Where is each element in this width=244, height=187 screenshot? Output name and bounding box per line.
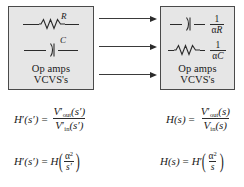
capacitance-symbol: C (217, 51, 223, 61)
left-caption-op-amps: Op amps (9, 63, 93, 75)
rhs-function: H (192, 155, 200, 167)
arrow-head-icon (150, 16, 157, 22)
lhs-argument: (s′) (24, 155, 38, 167)
fraction-denominator: V′in(s′) (53, 118, 85, 132)
arrow-head-icon (150, 72, 157, 78)
lhs-function: H (14, 155, 22, 167)
right-row-resistor: 1 αC (161, 37, 234, 63)
resistance-symbol: R (217, 25, 223, 35)
fraction-denominator: αR (210, 24, 225, 35)
left-row-resistor: R (9, 11, 93, 37)
transform-arrow-3 (99, 70, 157, 79)
rhs-function: H (51, 155, 59, 167)
fraction-numerator: 1 (213, 14, 222, 24)
right-caption-vcvs: VCVS's (161, 74, 234, 86)
fraction-numerator: α2 (206, 150, 218, 161)
fraction-denominator: αC (210, 50, 225, 61)
equation-right-mapping: H(s) = H′ ( α2 s ) (160, 150, 223, 172)
equals-sign: = (41, 113, 47, 125)
fraction-denominator: s (209, 161, 217, 172)
capacitor-icon (182, 17, 194, 31)
transform-arrow-2 (99, 42, 157, 51)
lead-line-right (200, 50, 205, 51)
equals-sign: = (183, 155, 189, 167)
numerator-argument: (s′) (71, 105, 85, 117)
arrow-shaft (99, 74, 151, 75)
arrow-shaft (99, 46, 151, 47)
denominator-argument: (s) (215, 119, 227, 131)
lhs-function: H (166, 113, 174, 125)
equals-sign: = (189, 113, 195, 125)
fraction-numerator: 1 (214, 40, 223, 50)
equation-left-mapping: H′(s′) = H ( α2 s′ ) (14, 150, 79, 172)
lhs-function: H (14, 113, 22, 125)
numerator-function: V (201, 105, 208, 117)
transfer-ratio: V′out(s) Vin(s) (199, 105, 232, 132)
lhs-argument: (s) (174, 113, 186, 125)
fraction-denominator: s′ (64, 161, 74, 172)
fraction-denominator: Vin(s) (202, 118, 229, 132)
lead-line-left (24, 50, 46, 51)
alpha-exponent: 2 (70, 150, 73, 157)
transfer-ratio: V′out(s′) V′in(s′) (52, 105, 87, 132)
denominator-function: V (55, 119, 62, 131)
right-parenthesis: ) (76, 152, 80, 170)
lead-line-right (194, 24, 205, 25)
fraction-numerator: V′out(s) (199, 105, 232, 118)
lead-line-right (65, 24, 79, 25)
impedance-value-1: 1 αR (210, 14, 225, 35)
equation-left-transfer-function: H′(s′) = V′out(s′) V′in(s′) (14, 105, 88, 132)
lead-line-right (58, 50, 78, 51)
denominator-argument: (s′) (69, 119, 83, 131)
equals-sign: = (41, 155, 47, 167)
resistor-symbol-group: R (23, 18, 79, 30)
arrow-head-icon (150, 44, 157, 50)
left-parenthesis: ( (202, 152, 206, 170)
capacitor-label: C (60, 36, 66, 45)
capacitor-icon (46, 43, 58, 57)
transformed-network-box: 1 αR 1 αC Op amps VCVS's (160, 6, 235, 90)
numerator-subscript: out (210, 111, 218, 118)
capacitor-symbol-group: 1 αR (170, 14, 226, 35)
left-row-capacitor: C (9, 37, 93, 63)
lhs-argument: (s) (168, 155, 180, 167)
equation-right-transfer-function: H(s) = V′out(s) Vin(s) (166, 105, 233, 132)
capacitor-symbol-group: C (24, 43, 78, 57)
alpha-exponent: 2 (213, 150, 216, 157)
lead-line-left (170, 24, 182, 25)
right-caption-op-amps: Op amps (161, 63, 234, 75)
frequency-mapping-argument: α2 s (206, 150, 218, 172)
numerator-subscript: out (63, 111, 71, 118)
left-parenthesis: ( (58, 152, 62, 170)
original-network-box: R C Op amps VCVS's (8, 6, 94, 90)
lhs-argument: (s′) (24, 113, 38, 125)
resistor-icon (174, 44, 200, 56)
resistor-symbol-group: 1 αC (168, 40, 226, 61)
left-caption-vcvs: VCVS's (9, 74, 93, 86)
fraction-numerator: α2 (63, 150, 75, 161)
transform-arrow-1 (99, 14, 157, 23)
lhs-function: H (160, 155, 168, 167)
lead-line-left (23, 24, 39, 25)
impedance-value-2: 1 αC (210, 40, 225, 61)
right-parenthesis: ) (219, 152, 223, 170)
right-row-capacitor: 1 αR (161, 11, 234, 37)
fraction-numerator: V′out(s′) (52, 105, 87, 118)
arrow-shaft (99, 18, 151, 19)
numerator-argument: (s) (218, 105, 230, 117)
frequency-mapping-argument: α2 s′ (63, 150, 75, 172)
resistor-label: R (61, 12, 67, 21)
